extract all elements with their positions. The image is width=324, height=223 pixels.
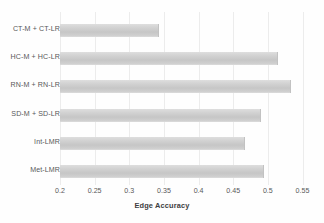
bar-row: SD-M + SD-LR bbox=[0, 106, 324, 134]
bar-row: HC-M + HC-LR bbox=[0, 49, 324, 77]
bar-category-label: HC-M + HC-LR bbox=[0, 53, 60, 61]
bar-category-label: CT-M + CT-LR bbox=[0, 25, 60, 33]
x-tick-label: 0.4 bbox=[194, 187, 204, 195]
x-tick-label: 0.25 bbox=[88, 187, 102, 195]
x-tick-label: 0.3 bbox=[124, 187, 134, 195]
x-tick-label: 0.35 bbox=[157, 187, 171, 195]
x-tick-label: 0.55 bbox=[296, 187, 310, 195]
bar bbox=[60, 137, 245, 150]
bar-chart: CT-M + CT-LRHC-M + HC-LRRN-M + RN-LRSD-M… bbox=[0, 0, 324, 223]
bar-category-label: SD-M + SD-LR bbox=[0, 110, 60, 118]
bar bbox=[60, 80, 291, 93]
bar-row: CT-M + CT-LR bbox=[0, 21, 324, 49]
x-tick-label: 0.2 bbox=[55, 187, 65, 195]
x-axis: 0.20.250.30.350.40.450.50.55 Edge Accura… bbox=[0, 185, 324, 223]
bar-row: RN-M + RN-LR bbox=[0, 77, 324, 105]
bar-category-label: RN-M + RN-LR bbox=[0, 81, 60, 89]
x-axis-title: Edge Accuracy bbox=[0, 201, 324, 210]
bar bbox=[60, 165, 264, 178]
x-tick-label: 0.45 bbox=[226, 187, 240, 195]
bar-category-label: Int-LMR bbox=[0, 138, 60, 146]
bar-row: Int-LMR bbox=[0, 134, 324, 162]
x-tick-label: 0.5 bbox=[263, 187, 273, 195]
bar bbox=[60, 109, 261, 122]
bar bbox=[60, 24, 159, 37]
bar-category-label: Met-LMR bbox=[0, 166, 60, 174]
bar bbox=[60, 52, 278, 65]
